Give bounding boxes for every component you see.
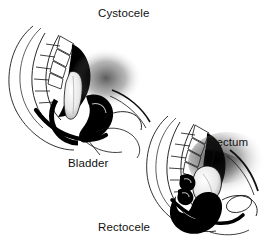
label-rectocele: Rectocele: [98, 221, 150, 234]
label-cystocele: Cystocele: [98, 7, 149, 20]
canvas-background: [0, 0, 270, 250]
label-bladder: Bladder: [68, 157, 108, 170]
pelvic-prolapse-figure: Cystocele Bladder Rectum Rectocele: [0, 0, 270, 250]
anatomy-illustration: [0, 0, 270, 250]
label-rectum: Rectum: [208, 136, 248, 149]
